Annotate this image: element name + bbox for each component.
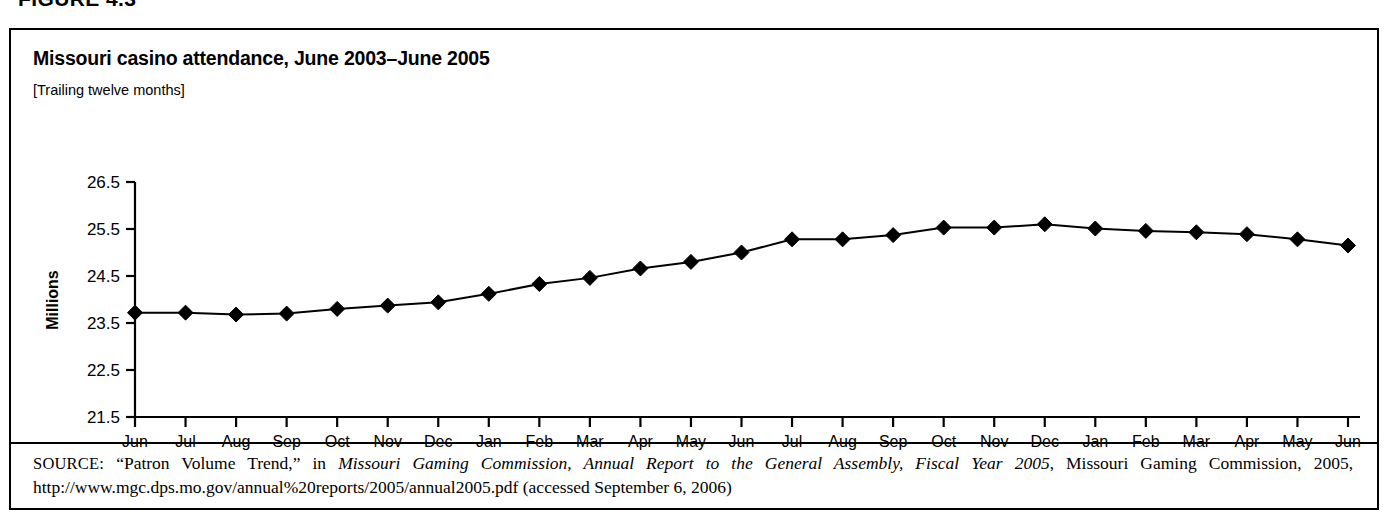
source-title-italic: Missouri Gaming Commission, Annual Repor…: [338, 453, 1050, 473]
figure-label: FIGURE 4.3: [18, 0, 136, 11]
data-point-marker: [582, 270, 597, 285]
line-chart: 21.522.523.524.525.526.5MillionsJun-03Ju…: [11, 30, 1377, 450]
source-text-part1: “Patron Volume Trend,” in: [104, 453, 338, 473]
data-point-marker: [987, 220, 1002, 235]
data-series-line: [135, 224, 1348, 314]
data-point-marker: [1189, 225, 1204, 240]
data-point-marker: [1290, 232, 1305, 247]
figure-container: Missouri casino attendance, June 2003–Ju…: [9, 28, 1379, 510]
data-point-marker: [229, 307, 244, 322]
y-axis-tick-label: 24.5: [87, 267, 120, 286]
source-note: SOURCE: “Patron Volume Trend,” in Missou…: [33, 452, 1353, 499]
plot-area: 21.522.523.524.525.526.5MillionsJun-03Ju…: [11, 30, 1377, 450]
data-point-marker: [886, 228, 901, 243]
data-point-marker: [380, 298, 395, 313]
data-point-marker: [734, 245, 749, 260]
source-label: SOURCE:: [33, 454, 104, 473]
data-point-marker: [481, 286, 496, 301]
data-point-marker: [835, 232, 850, 247]
data-point-marker: [785, 232, 800, 247]
data-point-marker: [1088, 221, 1103, 236]
data-point-marker: [936, 220, 951, 235]
data-point-marker: [279, 306, 294, 321]
data-point-marker: [633, 261, 648, 276]
data-point-marker: [431, 295, 446, 310]
data-point-marker: [1341, 238, 1356, 253]
source-divider: [11, 442, 1377, 444]
data-point-marker: [1138, 223, 1153, 238]
data-point-marker: [1239, 227, 1254, 242]
data-point-marker: [683, 254, 698, 269]
data-point-marker: [532, 276, 547, 291]
data-point-marker: [330, 301, 345, 316]
y-axis-tick-label: 22.5: [87, 361, 120, 380]
y-axis-tick-label: 25.5: [87, 220, 120, 239]
y-axis-tick-label: 21.5: [87, 408, 120, 427]
y-axis-tick-label: 26.5: [87, 173, 120, 192]
data-point-marker: [178, 305, 193, 320]
data-point-marker: [128, 305, 143, 320]
data-point-marker: [1037, 217, 1052, 232]
y-axis-title: Millions: [44, 270, 61, 330]
y-axis-tick-label: 23.5: [87, 314, 120, 333]
